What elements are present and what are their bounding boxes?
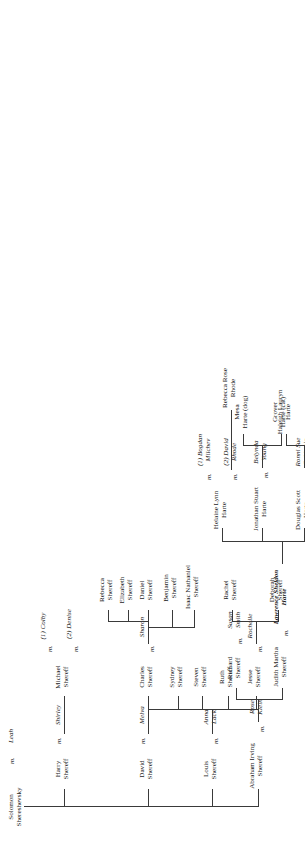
bus-jonathan-children xyxy=(243,445,281,446)
person-judith: Judith Martha Shereff xyxy=(273,638,289,696)
person-name-line2: Smith xyxy=(235,600,243,640)
family-tree-canvas-harte: Richard Shereff m. Susan Smith Judith Ma… xyxy=(0,0,305,856)
person-name-line2: Harte (dog) xyxy=(242,386,250,438)
person-richard: Richard Shereff xyxy=(227,646,243,690)
person-belynda: Belynda Young xyxy=(253,430,269,474)
bus-abraham-kids-2 xyxy=(236,699,282,700)
person-name-line2: Harte xyxy=(285,382,293,442)
person-mesa: Mesa Harte (dog) xyxy=(234,386,250,438)
person-name-line2: Harte xyxy=(303,482,305,538)
person-name-line2: Harte xyxy=(281,564,289,630)
person-bogdan: (1) Bogdan Milchev xyxy=(197,424,213,476)
person-name-line2: Harte xyxy=(261,480,269,538)
person-helaine: Helaine Lynn Harte xyxy=(213,482,229,538)
connector-desc-lawrence xyxy=(282,542,283,564)
bus-douglas-children xyxy=(286,445,305,446)
connector-desc-jonathan xyxy=(262,446,263,468)
marriage-mark-judith-lawrence: m. xyxy=(282,629,290,636)
person-name-line2: Harte xyxy=(221,482,229,538)
person-name-line2: Shereff xyxy=(281,638,289,696)
bus-lawrence-children xyxy=(222,541,304,542)
person-susan: Susan Smith xyxy=(227,600,243,640)
person-name-line2: Shereff xyxy=(235,646,243,690)
person-haleigh: Haleigh Lauryn Harte xyxy=(277,382,293,442)
person-douglas: Douglas Scott Harte xyxy=(295,482,305,538)
connector-desc-helaine xyxy=(231,410,232,470)
person-jonathan: Jonathan Stuart Harte xyxy=(253,480,269,538)
family-tree-viewport: Solomon Shereshevsky m. Leah Harry Shere… xyxy=(0,0,305,856)
person-name-line2: Milchev xyxy=(205,424,213,476)
person-lawrence: Lawrence Sheldon Harte xyxy=(273,564,289,630)
connector-desc-douglas xyxy=(304,446,305,468)
